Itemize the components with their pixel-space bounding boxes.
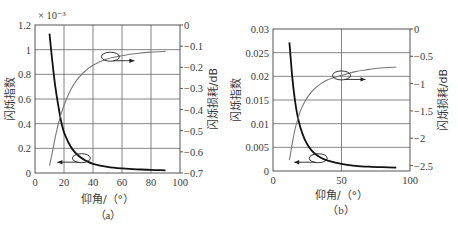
x-tick-label: 50	[336, 175, 347, 186]
panel-caption: （a）	[95, 209, 122, 221]
arrow-right-icon	[129, 59, 134, 63]
x-tick-label: 60	[117, 177, 128, 188]
y-right-tick-label: −0.7	[184, 168, 203, 179]
scintillation-index-curve	[289, 42, 396, 167]
y-right-tick-label: 0	[414, 24, 419, 35]
y-left-tick-label: 0.03	[251, 24, 269, 35]
arrow-left-icon	[294, 160, 299, 164]
y-right-tick-label: −2.5	[414, 161, 433, 172]
arrow-left-icon	[57, 160, 62, 164]
y-right-tick-label: −0.5	[414, 51, 433, 62]
x-axis-label: 仰角/（°）	[81, 192, 134, 206]
y-right-axis-label: 闪烁损耗/dB	[436, 69, 450, 131]
y-left-tick-label: 0.025	[245, 48, 269, 59]
x-tick-label: 20	[59, 177, 70, 188]
y-left-tick-label: 0.4	[18, 119, 32, 130]
y-left-axis-label: 闪烁指数	[3, 77, 17, 121]
x-tick-label: 40	[88, 177, 99, 188]
y-right-tick-label: −0.3	[184, 83, 203, 94]
y-left-tick-label: 1	[26, 45, 31, 56]
y-right-tick-label: −1	[414, 79, 425, 90]
x-tick-label: 0	[32, 177, 37, 188]
chart-panel-b: 05010000.0050.010.0150.020.0250.030−0.5−…	[229, 24, 450, 216]
y-left-tick-label: 0.01	[251, 119, 269, 130]
gridlines	[273, 29, 410, 171]
y-left-tick-label: 0.015	[245, 95, 269, 106]
y-left-tick-label: 0.02	[251, 71, 269, 82]
scintillation-loss-curve	[289, 67, 396, 160]
y-right-tick-label: −0.1	[184, 41, 203, 52]
y-right-tick-label: −0.5	[184, 126, 203, 137]
figure: 02040608010000.20.40.60.811.20−0.1−0.2−0…	[0, 0, 458, 225]
y-left-tick-label: 0	[264, 166, 269, 177]
scintillation-index-curve	[50, 34, 166, 171]
y-left-tick-label: 0.2	[18, 143, 31, 154]
y-right-tick-label: −0.4	[184, 105, 204, 116]
arrow-right-icon	[361, 77, 366, 81]
y-left-tick-label: 0.6	[18, 94, 31, 105]
y-right-tick-label: −1.5	[414, 106, 433, 117]
panel-caption: （b）	[327, 204, 355, 216]
y-right-tick-label: −0.2	[184, 62, 203, 73]
y-right-tick-label: −0.6	[184, 147, 203, 158]
y-left-tick-label: 0.005	[245, 142, 269, 153]
y-left-axis-label: 闪烁指数	[229, 78, 243, 122]
x-tick-label: 80	[146, 177, 157, 188]
y-left-tick-label: 0.8	[18, 69, 31, 80]
y-right-tick-label: −2	[414, 133, 425, 144]
x-tick-label: 100	[402, 175, 418, 186]
y-left-tick-label: 1.2	[18, 20, 31, 31]
x-axis-label: 仰角/（°）	[315, 188, 368, 202]
chart-panel-a: 02040608010000.20.40.60.811.20−0.1−0.2−0…	[3, 10, 220, 221]
y-left-multiplier: × 10⁻³	[38, 10, 66, 21]
x-tick-label: 0	[270, 175, 275, 186]
y-left-tick-label: 0	[26, 168, 31, 179]
y-right-tick-label: 0	[184, 20, 189, 31]
y-right-axis-label: 闪烁损耗/dB	[206, 68, 220, 130]
